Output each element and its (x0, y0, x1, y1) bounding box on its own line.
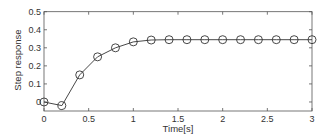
axis-ticks (44, 12, 312, 111)
x-tick-label: 3 (309, 114, 314, 124)
series-line (44, 40, 312, 106)
x-tick-label: 0.5 (82, 114, 95, 124)
step-response-chart: 00.511.522.5300.10.20.30.40.5 Time[s] St… (0, 0, 329, 140)
y-axis-label: Step response (12, 29, 23, 90)
y-tick-label: 0.2 (28, 61, 41, 71)
plot-border (44, 12, 312, 111)
x-axis-label: Time[s] (163, 123, 194, 134)
y-tick-label: 0.5 (28, 7, 41, 17)
y-tick-label: 0.4 (28, 25, 41, 35)
x-tick-label: 1 (131, 114, 136, 124)
tick-labels: 00.511.522.5300.10.20.30.40.5 (28, 7, 314, 124)
x-tick-label: 0 (41, 114, 46, 124)
plot-frame (44, 12, 312, 111)
x-tick-label: 2 (220, 114, 225, 124)
y-tick-label: 0.1 (28, 79, 41, 89)
x-tick-label: 2.5 (261, 114, 274, 124)
y-tick-label: 0.3 (28, 43, 41, 53)
data-series (40, 36, 316, 110)
